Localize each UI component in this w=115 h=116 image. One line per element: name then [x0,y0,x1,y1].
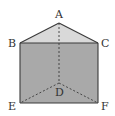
prism-diagram: A B C D E F [0,0,115,116]
vertex-label-B: B [8,37,16,50]
vertex-label-E: E [8,100,16,113]
vertex-label-F: F [101,100,109,113]
vertex-label-C: C [101,37,109,50]
prism-svg: A B C D E F [0,0,115,116]
vertex-label-A: A [54,8,64,21]
vertex-label-D: D [55,86,64,99]
